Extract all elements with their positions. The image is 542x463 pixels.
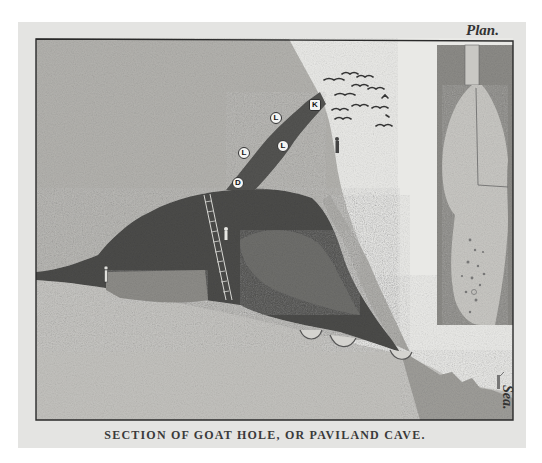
plan-label: Plan. <box>466 22 499 39</box>
cave-section-illustration <box>0 0 542 463</box>
marker-k: K <box>309 99 321 111</box>
figure-at-wall <box>104 266 108 282</box>
marker-d: D <box>232 177 244 189</box>
marker-l-upper: L <box>270 112 282 124</box>
stone-wall <box>106 270 208 303</box>
section-drawing <box>36 38 513 420</box>
figure-on-ladder <box>224 227 228 240</box>
figure-on-cliff <box>335 137 339 153</box>
marker-l-right: L <box>277 140 289 152</box>
plan-inset <box>437 45 513 325</box>
plan-entrance-shaft <box>465 45 479 85</box>
sea-label: Sea. <box>499 385 515 410</box>
marker-l-left: L <box>238 147 250 159</box>
figure-caption: SECTION OF GOAT HOLE, OR PAVILAND CAVE. <box>0 428 536 443</box>
